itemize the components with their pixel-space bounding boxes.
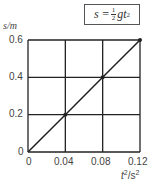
- x-tick-0.04: 0.04: [54, 156, 73, 167]
- y-axis-label: s/m: [3, 20, 17, 31]
- y-tick-0: 0: [18, 146, 24, 157]
- formula-annotation: s = 1 2 gt2: [84, 4, 140, 25]
- y-tick-0.2: 0.2: [9, 108, 23, 119]
- data-point: [101, 75, 105, 79]
- formula-exp: 2: [127, 11, 131, 19]
- y-tick-0.4: 0.4: [9, 71, 23, 82]
- data-series: [28, 38, 142, 152]
- x-tick-0.08: 0.08: [91, 156, 110, 167]
- y-tick-0.6: 0.6: [9, 34, 23, 45]
- data-point: [63, 113, 67, 117]
- x-tick-0.12: 0.12: [128, 156, 147, 167]
- x-tick-0: 0: [26, 156, 32, 167]
- data-point: [138, 38, 142, 42]
- formula-fraction: 1 2: [111, 7, 117, 22]
- formula-lhs: s =: [94, 7, 110, 22]
- x-axis-label: t2/s2: [121, 169, 139, 181]
- formula-rest: gt: [117, 7, 126, 22]
